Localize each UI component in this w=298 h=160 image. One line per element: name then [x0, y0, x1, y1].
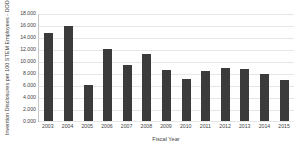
y-axis-tick-label: 18.000 — [20, 11, 36, 16]
x-axis-tick-label: 2011 — [196, 124, 216, 129]
bar — [84, 85, 93, 121]
bar — [221, 68, 230, 121]
bar — [260, 74, 269, 121]
x-axis-tick-label: 2015 — [274, 124, 294, 129]
bar — [240, 69, 249, 121]
y-axis-tick-label: 10.000 — [20, 59, 36, 64]
gridline — [39, 121, 294, 122]
y-axis-tick-label: 8.000 — [23, 71, 36, 76]
y-axis-title: Invention Disclosures per 100 STEM Emplo… — [4, 0, 9, 135]
y-axis-tick-label: 6.000 — [23, 83, 36, 88]
x-axis-tick-label: 2013 — [235, 124, 255, 129]
bar-chart-figure: Invention Disclosures per 100 STEM Emplo… — [0, 0, 298, 160]
x-axis-tick-label: 2005 — [77, 124, 97, 129]
bar — [44, 33, 53, 121]
y-axis-title-container: Invention Disclosures per 100 STEM Emplo… — [0, 0, 14, 135]
bar — [103, 49, 112, 121]
bar — [182, 79, 191, 121]
bar — [162, 70, 171, 121]
plot-area — [38, 14, 294, 122]
y-axis-tick-label: 2.000 — [23, 107, 36, 112]
y-axis-tick-label: 4.000 — [23, 95, 36, 100]
bar — [64, 26, 73, 121]
y-axis-tick-label: 12.000 — [20, 47, 36, 52]
x-axis-tick-label: 2009 — [156, 124, 176, 129]
x-axis-tick-label: 2004 — [58, 124, 78, 129]
bar — [280, 80, 289, 121]
bar-series — [39, 14, 294, 121]
bar — [123, 65, 132, 121]
bar — [142, 54, 151, 121]
x-axis-tick-label: 2014 — [255, 124, 275, 129]
y-axis-tick-labels: 0.0002.0004.0006.0008.00010.00012.00014.… — [13, 14, 38, 122]
x-axis-title: Fiscal Year — [38, 137, 294, 143]
y-axis-tick-label: 0.000 — [23, 119, 36, 124]
x-axis-tick-label: 2010 — [176, 124, 196, 129]
x-axis-tick-label: 2003 — [38, 124, 58, 129]
x-axis-tick-label: 2006 — [97, 124, 117, 129]
x-axis-tick-labels: 2003200420052006200720082009201020112012… — [38, 124, 294, 134]
y-axis-tick-label: 14.000 — [20, 35, 36, 40]
x-axis-tick-label: 2008 — [136, 124, 156, 129]
y-axis-tick-label: 16.000 — [20, 23, 36, 28]
bar — [201, 71, 210, 121]
x-axis-tick-label: 2012 — [215, 124, 235, 129]
x-axis-tick-label: 2007 — [117, 124, 137, 129]
